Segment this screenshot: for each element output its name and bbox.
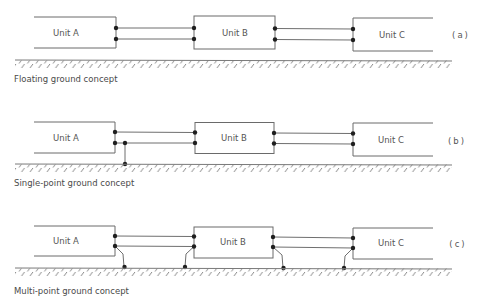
unit-c-box: Unit C: [353, 228, 433, 259]
unit-b-box: Unit B: [194, 227, 273, 258]
unit-a-label: Unit A: [53, 133, 79, 143]
unit-a-box: Unit A: [34, 17, 116, 48]
unit-b-label: Unit B: [220, 237, 246, 247]
caption-multi-point-ground: Multi-point ground concept: [14, 286, 130, 296]
caption-floating-ground: Floating ground concept: [14, 74, 118, 84]
unit-c-label: Unit C: [378, 238, 404, 248]
panel-label-a: (a): [452, 30, 470, 40]
unit-a-label: Unit A: [53, 236, 79, 246]
ground-plane-hatch: [15, 164, 452, 172]
signal-wires-b-c: [275, 29, 353, 41]
panel-label-c: (c): [449, 239, 466, 249]
unit-c-label: Unit C: [378, 135, 404, 145]
panel-a-floating-ground: Unit A Unit B Unit C: [14, 16, 470, 84]
single-ground-connection: [123, 141, 127, 166]
unit-b-box: Unit B: [195, 123, 274, 154]
signal-wires-a-b: [115, 236, 194, 247]
signal-wires-a-b: [115, 132, 195, 143]
unit-c-label: Unit C: [379, 30, 405, 40]
caption-single-point-ground: Single-point ground concept: [14, 178, 135, 188]
signal-wires-b-c: [274, 133, 353, 144]
unit-c-box: Unit C: [353, 123, 433, 156]
unit-b-label: Unit B: [222, 28, 248, 38]
grounding-concepts-figure: Unit A Unit B Unit C: [0, 0, 482, 305]
unit-b-label: Unit B: [221, 133, 247, 143]
signal-wires-a-b: [116, 28, 194, 39]
unit-c-box: Unit C: [353, 18, 433, 51]
unit-a-label: Unit A: [53, 28, 79, 38]
unit-b-box: Unit B: [194, 16, 275, 49]
signal-wires-b-c: [273, 237, 353, 248]
panel-b-single-point-ground: Unit A Unit B Unit C: [14, 122, 466, 188]
panel-label-b: (b): [448, 136, 466, 146]
ground-plane-hatch: [15, 60, 452, 68]
unit-a-box: Unit A: [34, 226, 115, 256]
panel-c-multi-point-ground: Unit A Unit B Unit C: [14, 226, 467, 296]
ground-plane-hatch: [15, 268, 452, 276]
unit-a-box: Unit A: [34, 122, 115, 153]
